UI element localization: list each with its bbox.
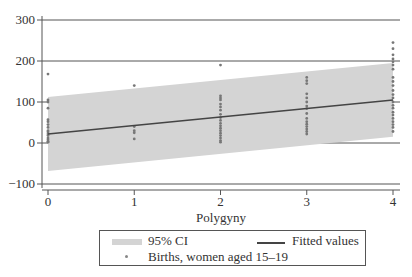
data-point xyxy=(47,123,50,126)
data-point xyxy=(219,64,222,67)
data-point xyxy=(305,133,308,136)
data-point xyxy=(392,64,395,67)
data-point xyxy=(392,104,395,107)
data-point xyxy=(47,101,50,104)
data-point xyxy=(392,89,395,92)
data-point xyxy=(392,47,395,50)
data-point xyxy=(219,129,222,132)
data-point xyxy=(305,101,308,104)
data-point xyxy=(392,97,395,100)
y-tick-label: −100 xyxy=(8,176,35,191)
data-point xyxy=(392,114,395,117)
data-point xyxy=(392,41,395,44)
data-point xyxy=(392,60,395,63)
x-tick-label: 2 xyxy=(217,194,224,209)
data-point xyxy=(305,130,308,133)
data-point xyxy=(305,120,308,123)
data-point xyxy=(47,120,50,123)
data-point xyxy=(47,73,50,76)
data-point xyxy=(392,53,395,56)
data-point xyxy=(392,107,395,110)
data-point xyxy=(392,84,395,87)
y-tick-label: 0 xyxy=(29,135,36,150)
data-point xyxy=(392,120,395,123)
data-point xyxy=(133,84,136,87)
data-point xyxy=(219,103,222,106)
data-point xyxy=(305,112,308,115)
data-point xyxy=(392,111,395,114)
data-point xyxy=(219,132,222,135)
x-tick-label: 3 xyxy=(304,194,311,209)
data-point xyxy=(305,76,308,79)
legend-fitted-label: Fitted values xyxy=(292,233,359,249)
line-swatch-icon xyxy=(257,242,285,244)
data-point xyxy=(392,93,395,96)
data-point xyxy=(305,92,308,95)
data-point xyxy=(219,106,222,109)
data-point xyxy=(133,138,136,141)
data-point xyxy=(219,127,222,130)
data-point xyxy=(392,101,395,104)
x-tick-label: 4 xyxy=(390,194,397,209)
data-point xyxy=(392,58,395,61)
data-point xyxy=(47,126,50,129)
data-point xyxy=(305,105,308,108)
data-point xyxy=(392,126,395,129)
data-point xyxy=(219,113,222,116)
data-point xyxy=(47,107,50,110)
data-point xyxy=(219,99,222,102)
x-tick-label: 0 xyxy=(45,194,52,209)
legend: 95% CI Fitted values Births, women aged … xyxy=(99,230,366,266)
data-point xyxy=(305,128,308,131)
x-axis-label: Polygyny xyxy=(196,210,246,225)
data-point xyxy=(392,80,395,83)
y-tick-label: 300 xyxy=(16,12,36,27)
data-point xyxy=(219,137,222,140)
data-point xyxy=(392,68,395,71)
data-point xyxy=(219,124,222,127)
data-point xyxy=(305,123,308,126)
data-point xyxy=(305,117,308,120)
data-point xyxy=(305,97,308,100)
data-point xyxy=(219,141,222,144)
data-point xyxy=(219,134,222,137)
data-point xyxy=(219,109,222,112)
ci-swatch-icon xyxy=(112,239,142,245)
data-point xyxy=(392,130,395,133)
x-axis-ticks: 01234 xyxy=(45,190,397,209)
data-point xyxy=(133,131,136,134)
y-tick-label: 100 xyxy=(16,94,36,109)
legend-ci-label: 95% CI xyxy=(148,233,188,249)
y-axis-ticks: 3002001000−100 xyxy=(8,12,42,191)
dot-swatch-icon xyxy=(125,255,128,258)
chart-plot: 3002001000−100 01234 Polygyny xyxy=(0,0,412,230)
data-point xyxy=(219,119,222,122)
data-point xyxy=(392,76,395,79)
data-point xyxy=(47,141,50,144)
x-tick-label: 1 xyxy=(131,194,138,209)
data-point xyxy=(305,79,308,82)
legend-points-label: Births, women aged 15–19 xyxy=(148,249,288,265)
data-point xyxy=(305,82,308,85)
data-point xyxy=(392,123,395,126)
y-tick-label: 200 xyxy=(16,53,36,68)
data-point xyxy=(392,117,395,120)
data-point xyxy=(305,125,308,128)
data-point xyxy=(219,122,222,125)
